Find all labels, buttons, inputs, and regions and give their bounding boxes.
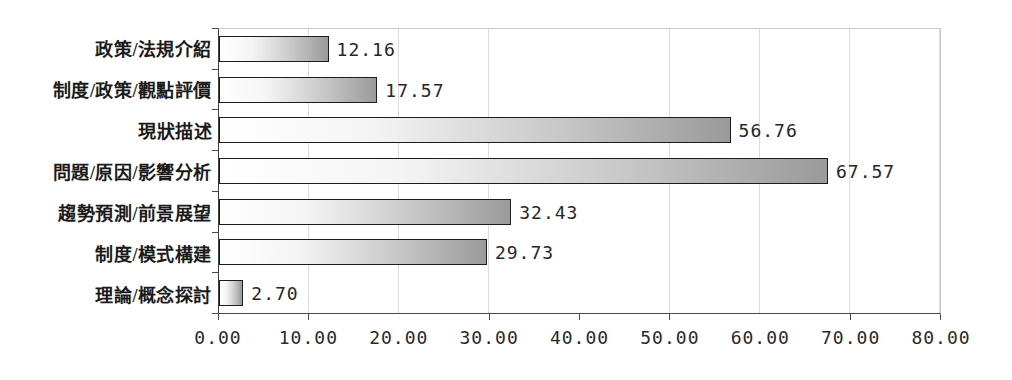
x-tick-label: 70.00 — [821, 327, 880, 348]
x-tick-label: 30.00 — [460, 327, 519, 348]
value-label: 32.43 — [519, 201, 578, 222]
value-label: 2.70 — [251, 282, 298, 303]
x-tick-label: 0.00 — [194, 327, 241, 348]
category-label: 現狀描述 — [0, 110, 212, 151]
bar — [219, 77, 377, 103]
x-tick-label: 20.00 — [369, 327, 428, 348]
plot-area: 12.16 17.57 56.76 67.57 32.43 29.73 2.70 — [218, 28, 941, 314]
bar-chart: 政策/法規介紹 制度/政策/觀點評價 現狀描述 問題/原因/影響分析 趨勢預測/… — [0, 0, 1012, 380]
category-label: 趨勢預測/前景展望 — [0, 191, 212, 232]
bar-row: 17.57 — [219, 70, 940, 111]
x-tick-label: 60.00 — [731, 327, 790, 348]
category-label: 理論/概念探討 — [0, 273, 212, 314]
bar — [219, 239, 487, 265]
category-label: 政策/法規介紹 — [0, 28, 212, 69]
category-axis: 政策/法規介紹 制度/政策/觀點評價 現狀描述 問題/原因/影響分析 趨勢預測/… — [0, 28, 212, 314]
category-label: 制度/政策/觀點評價 — [0, 69, 212, 110]
bar-row: 56.76 — [219, 110, 940, 151]
value-label: 56.76 — [739, 120, 798, 141]
value-label: 17.57 — [385, 79, 444, 100]
x-tick-label: 40.00 — [550, 327, 609, 348]
value-label: 29.73 — [495, 242, 554, 263]
bar-row: 32.43 — [219, 191, 940, 232]
category-label: 問題/原因/影響分析 — [0, 151, 212, 192]
x-tick-label: 80.00 — [911, 327, 970, 348]
bar — [219, 36, 329, 62]
bar-row: 12.16 — [219, 29, 940, 70]
bar — [219, 117, 731, 143]
x-axis: 0.00 10.00 20.00 30.00 40.00 50.00 60.00… — [218, 327, 941, 351]
bar — [219, 199, 511, 225]
bar-row: 2.70 — [219, 272, 940, 313]
bar-row: 29.73 — [219, 232, 940, 273]
bar — [219, 158, 828, 184]
value-label: 12.16 — [337, 39, 396, 60]
bar — [219, 280, 243, 306]
x-axis-ticks — [218, 314, 941, 320]
bar-row: 67.57 — [219, 151, 940, 192]
category-label: 制度/模式構建 — [0, 232, 212, 273]
value-label: 67.57 — [836, 160, 895, 181]
x-tick-label: 10.00 — [279, 327, 338, 348]
x-tick-label: 50.00 — [640, 327, 699, 348]
